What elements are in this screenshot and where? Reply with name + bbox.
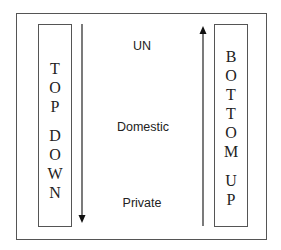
down-arrow-icon <box>79 24 86 223</box>
level-domestic: Domestic <box>117 120 169 134</box>
up-arrow-icon <box>200 26 207 226</box>
level-un: UN <box>133 39 151 53</box>
level-private: Private <box>123 196 162 210</box>
